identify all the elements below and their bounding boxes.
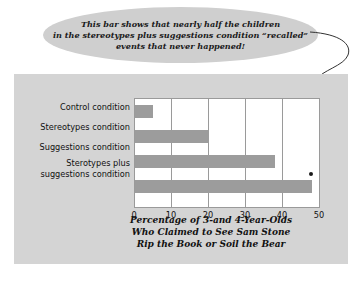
chart-body: Control condition Stereotypes condition … <box>14 74 348 264</box>
category-label-stereotypes-plus-suggestions: Sterotypes plus suggestions condition <box>14 158 130 179</box>
category-axis-labels: Control condition Stereotypes condition … <box>14 100 130 204</box>
chart-panel: Control condition Stereotypes condition … <box>14 74 348 264</box>
category-label-suggestions: Suggestions condition <box>14 142 130 153</box>
annotation-target-dot <box>309 172 313 176</box>
callout-bubble: This bar shows that nearly half the chil… <box>43 7 318 63</box>
bar-control-condition <box>135 105 153 118</box>
bar-stereotypes-condition <box>135 130 209 143</box>
bar-suggestions-condition <box>135 155 275 168</box>
category-label-control: Control condition <box>14 102 130 113</box>
bar-stereotypes-plus-suggestions-condition <box>135 180 312 193</box>
chart-caption: Percentage of 3-and 4-Year-Olds Who Clai… <box>74 214 348 250</box>
plot-area <box>134 98 320 208</box>
category-label-stereotypes: Stereotypes condition <box>14 122 130 133</box>
callout-text: This bar shows that nearly half the chil… <box>47 19 314 52</box>
figure-container: This bar shows that nearly half the chil… <box>0 0 362 281</box>
